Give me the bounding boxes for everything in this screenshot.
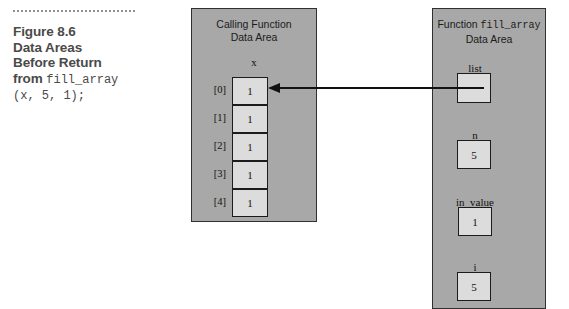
caption-line-title-2: Before Return	[13, 55, 173, 71]
array-name-label-x: x	[191, 56, 317, 68]
fill-array-title-line-2: Data Area	[433, 33, 545, 46]
array-cell-4: 1	[232, 189, 268, 217]
array-index-label-3: [3]	[200, 168, 226, 179]
calling-function-title-line-1: Calling Function	[192, 18, 316, 31]
fill-array-title-function-word: Function	[437, 18, 480, 30]
caption-line-figure-number: Figure 8.6	[13, 24, 173, 40]
array-cell-3: 1	[232, 161, 268, 189]
array-cell-1: 1	[232, 105, 268, 133]
fill-array-panel-heading: Function fill_array Data Area	[433, 18, 545, 45]
variable-box-n: 5	[457, 140, 491, 169]
variable-box-in-value: 1	[458, 207, 492, 236]
array-index-label-4: [4]	[200, 196, 226, 207]
caption-divider-rule	[13, 10, 135, 12]
array-cell-0: 1	[232, 77, 268, 105]
fill-array-title-function-name: fill_array	[481, 20, 541, 31]
calling-function-panel-heading: Calling Function Data Area	[192, 18, 316, 43]
figure-8-6-data-areas: Figure 8.6 Data Areas Before Return from…	[0, 0, 569, 309]
figure-caption: Figure 8.6 Data Areas Before Return from…	[13, 10, 173, 104]
caption-function-name: fill_array	[46, 73, 118, 87]
array-index-label-0: [0]	[200, 84, 226, 95]
variable-box-i: 5	[457, 272, 491, 301]
fill-array-title-line-1: Function fill_array	[433, 18, 545, 33]
calling-function-title-line-2: Data Area	[192, 31, 316, 44]
caption-from-word: from	[13, 71, 46, 86]
caption-line-function: from fill_array	[13, 71, 173, 89]
caption-line-title-1: Data Areas	[13, 40, 173, 56]
array-index-label-1: [1]	[200, 112, 226, 123]
array-index-label-2: [2]	[200, 140, 226, 151]
array-cell-2: 1	[232, 133, 268, 161]
caption-line-arguments: (x, 5, 1);	[13, 88, 173, 104]
variable-box-list	[457, 73, 491, 103]
